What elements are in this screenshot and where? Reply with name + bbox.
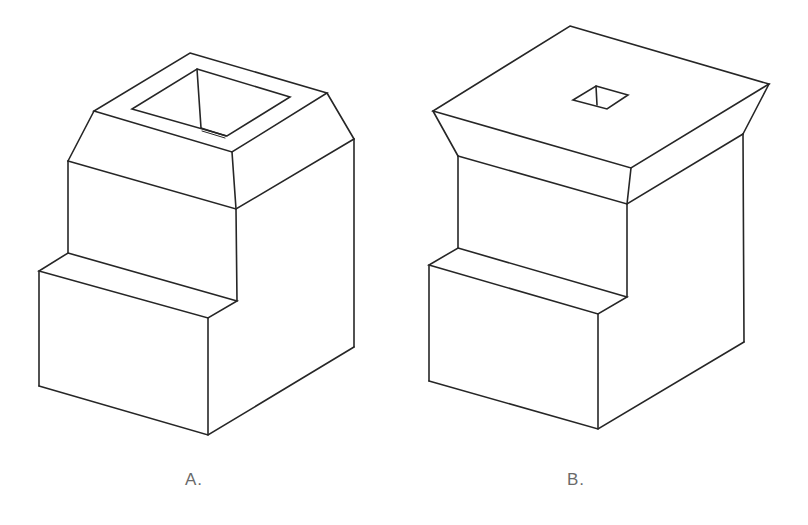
figure-a-chamfer-left (68, 111, 94, 161)
figure-a-recess-outline (132, 69, 290, 136)
figure-a-label: A. (185, 470, 203, 490)
figure-a-top-face (94, 53, 327, 152)
figure-a-recess-inner-edge (197, 69, 201, 128)
figure-b-hole-outline (573, 86, 628, 109)
isometric-drawings (0, 0, 808, 525)
figure-b-step-top (429, 248, 627, 314)
figure-a-chamfer-lower-edge (68, 139, 354, 209)
figure-b-label: B. (567, 470, 585, 490)
figure-a (39, 53, 354, 435)
figure-b-cap-lower-edge (458, 134, 743, 204)
figure-b-right-edge (743, 134, 744, 342)
figure-a-step-top (39, 253, 237, 318)
figure-a-base-bottom-edge (39, 347, 354, 435)
figure-b-cap-front (627, 168, 631, 204)
figure-b (429, 26, 769, 429)
figure-b-base-bottom-edge (429, 342, 744, 429)
figure-b-hole-inner-edge (596, 86, 597, 105)
figure-a-upper-front-edge (236, 209, 237, 301)
figure-b-top-face (433, 26, 769, 168)
figure-a-chamfer-front (232, 152, 236, 209)
figure-a-chamfer-right (327, 93, 354, 139)
